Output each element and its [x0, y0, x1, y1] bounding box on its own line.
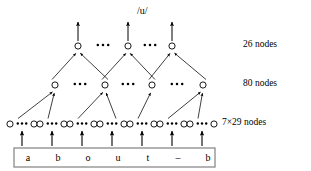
layer-label-output: 26 nodes — [243, 40, 277, 50]
ellipsis-dot — [79, 83, 82, 86]
word-letter: a — [26, 153, 30, 163]
ellipsis-dot — [111, 122, 113, 124]
ellipsis-dot — [127, 83, 130, 86]
ellipsis-dot — [21, 122, 23, 124]
word-letter: u — [116, 153, 121, 163]
network-node — [149, 82, 155, 88]
word-to-input-arrows — [22, 131, 202, 146]
edges-hidden-to-output — [52, 53, 206, 79]
ellipsis-dot — [171, 122, 173, 124]
ellipsis-dot — [107, 44, 110, 47]
connection-arrow — [52, 53, 76, 79]
network-node — [31, 121, 37, 127]
network-node — [121, 121, 127, 127]
ellipsis-dot — [47, 122, 49, 124]
ellipsis-dot — [175, 122, 177, 124]
connection-arrow — [102, 53, 126, 79]
word-box-border — [14, 148, 215, 167]
connection-arrow — [48, 93, 54, 118]
connection-arrow — [168, 92, 201, 118]
ellipsis-dot — [171, 83, 174, 86]
word-letter: o — [86, 153, 91, 163]
word-box — [14, 148, 215, 167]
ellipsis-dot — [154, 44, 157, 47]
ellipsis-dot — [25, 122, 27, 124]
network-node — [97, 121, 103, 127]
input-layer-nodes — [7, 121, 217, 127]
network-node — [102, 82, 108, 88]
ellipsis-dot — [144, 44, 147, 47]
ellipsis-dot — [115, 122, 117, 124]
word-letter: b — [206, 153, 211, 163]
output-arrows — [78, 22, 172, 41]
network-node — [37, 121, 43, 127]
layer-label-hidden: 80 nodes — [243, 79, 277, 89]
word-letter: b — [56, 153, 61, 163]
network-node — [200, 82, 206, 88]
connection-arrow — [18, 92, 52, 119]
connection-arrow — [130, 53, 155, 79]
ellipsis-dot — [122, 83, 125, 86]
ellipsis-dot — [84, 83, 87, 86]
ellipsis-dot — [181, 83, 184, 86]
ellipsis-dot — [201, 122, 203, 124]
layer-label-input: 7×29 nodes — [222, 118, 266, 128]
connection-arrow — [78, 92, 103, 118]
ellipsis-dot — [107, 122, 109, 124]
network-node — [157, 121, 163, 127]
ellipsis-dot — [97, 44, 100, 47]
ellipsis-dot — [77, 122, 79, 124]
ellipsis-dot — [81, 122, 83, 124]
network-node — [7, 121, 13, 127]
word-letter: t — [147, 153, 150, 163]
ellipsis-dot — [145, 122, 147, 124]
network-node — [187, 121, 193, 127]
network-node — [91, 121, 97, 127]
ellipsis-dot — [51, 122, 53, 124]
connection-arrow — [198, 93, 202, 118]
ellipsis-dot — [74, 83, 77, 86]
ellipsis-dot — [85, 122, 87, 124]
ellipsis-dot — [141, 122, 143, 124]
hidden-layer-nodes — [52, 82, 206, 88]
connection-arrow — [174, 53, 206, 79]
network-node — [127, 121, 133, 127]
edges-input-to-hidden — [18, 92, 202, 119]
ellipsis-dot — [55, 122, 57, 124]
network-node — [67, 121, 73, 127]
ellipsis-dot — [205, 122, 207, 124]
network-node — [211, 121, 217, 127]
network-node — [151, 121, 157, 127]
connection-arrow — [138, 93, 151, 119]
connection-arrow — [149, 53, 170, 79]
network-node — [169, 43, 175, 49]
phoneme-output-label: /u/ — [137, 6, 148, 16]
ellipsis-dot — [197, 122, 199, 124]
ellipsis-dot — [167, 122, 169, 124]
ellipsis-dot — [149, 44, 152, 47]
ellipsis-dot — [176, 83, 179, 86]
network-diagram-figure: /u/ 26 nodes 80 nodes 7×29 nodes about–b — [0, 0, 311, 171]
word-letter: – — [176, 153, 181, 163]
ellipsis-dot — [132, 83, 135, 86]
network-node — [52, 82, 58, 88]
output-layer-nodes — [75, 43, 175, 49]
network-node — [181, 121, 187, 127]
ellipsis-dot — [17, 122, 19, 124]
network-node — [75, 43, 81, 49]
ellipsis-dot — [137, 122, 139, 124]
connection-arrow — [106, 93, 116, 119]
network-node — [125, 43, 131, 49]
network-node — [61, 121, 67, 127]
connection-arrow — [80, 53, 108, 79]
ellipsis-dot — [102, 44, 105, 47]
